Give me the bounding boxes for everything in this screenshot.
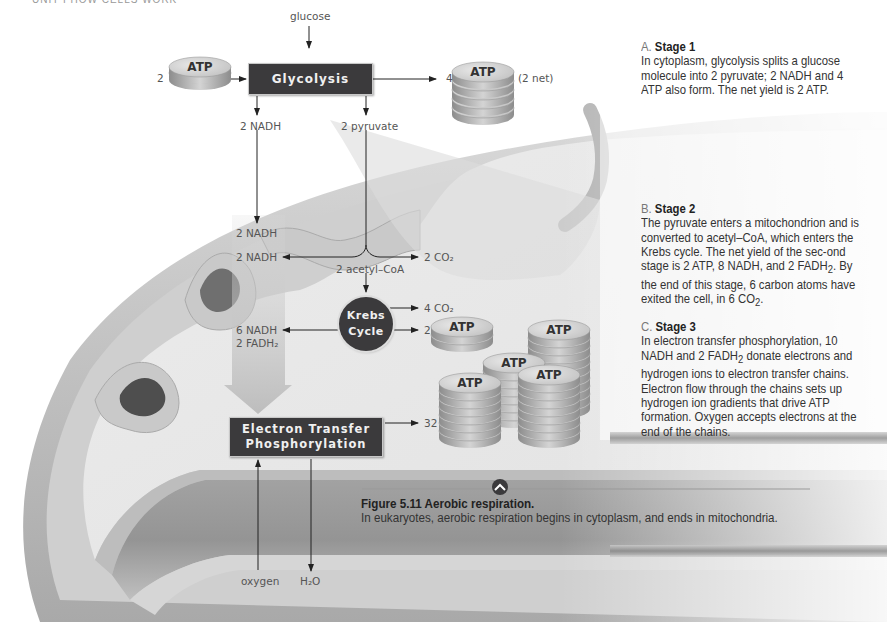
svg-text:ATP: ATP (187, 60, 213, 74)
stage2-body: The pyruvate enters a mitochondrion and … (641, 216, 864, 311)
stage1-text: A. Stage 1 In cytoplasm, glycolysis spli… (641, 40, 864, 97)
atp-net-label: (2 net) (518, 72, 553, 84)
atp-coin-input: ATP (169, 57, 231, 90)
stage3-letter: C. (641, 320, 652, 334)
krebs-cycle-circle: Krebs Cycle (339, 297, 393, 351)
stage3-body: In electron transfer phosphorylation, 10… (641, 334, 864, 439)
atp-glycolysis-count: 4 (446, 72, 453, 84)
acetyl-coa-label: 2 acetyl–CoA (336, 263, 404, 275)
etp-box: Electron Transfer Phosphorylation (229, 417, 383, 457)
svg-text:ATP: ATP (457, 376, 483, 390)
oxygen-label: oxygen (241, 575, 279, 587)
caption-body: In eukaryotes, aerobic respiration begin… (361, 511, 778, 525)
svg-text:ATP: ATP (501, 356, 527, 370)
etp-line1: Electron Transfer (230, 422, 382, 437)
svg-text:ATP: ATP (449, 320, 475, 334)
atp-stack-etp-4: ATP (518, 365, 580, 448)
atp-etp-count: 32 (424, 417, 437, 429)
pyruvate-label: 2 pyruvate (341, 120, 398, 132)
caption-title: Figure 5.11 Aerobic respiration. (361, 497, 778, 511)
glucose-label: glucose (290, 10, 330, 22)
water-label: H₂O (300, 575, 320, 587)
stage1-title: Stage 1 (655, 40, 695, 54)
atp-stack-etp-3: ATP (439, 373, 501, 448)
atp-coin-krebs: ATP (431, 317, 493, 352)
svg-text:ATP: ATP (546, 323, 572, 337)
etp-line2: Phosphorylation (230, 437, 382, 452)
svg-text:ATP: ATP (470, 65, 496, 79)
krebs-line1: Krebs (339, 308, 393, 324)
running-head: UNIT I HOW CELLS WORK (32, 0, 177, 5)
glycolysis-box: Glycolysis (248, 63, 373, 95)
stage2-text: B. Stage 2 The pyruvate enters a mitocho… (641, 202, 864, 311)
stage1-body: In cytoplasm, glycolysis splits a glucos… (641, 54, 864, 97)
atp-input-count: 2 (157, 72, 164, 84)
stage1-letter: A. (641, 40, 652, 54)
svg-text:ATP: ATP (536, 368, 562, 382)
atp-krebs-count: 2 (424, 324, 431, 336)
stage2-title: Stage 2 (655, 202, 695, 216)
atp-stack-glycolysis: ATP (452, 62, 514, 125)
glycolysis-label: Glycolysis (272, 72, 349, 86)
krebs-line2: Cycle (339, 324, 393, 340)
nadh-glycolysis-label: 2 NADH (240, 120, 281, 132)
nadh-pyruvate-label: 2 NADH (236, 251, 277, 263)
stage2-letter: B. (641, 202, 652, 216)
figure-caption: Figure 5.11 Aerobic respiration. In euka… (361, 497, 778, 525)
co2-pyruvate-label: 2 CO₂ (424, 251, 454, 263)
stage3-title: Stage 3 (655, 320, 695, 334)
stage3-text: C. Stage 3 In electron transfer phosphor… (641, 320, 864, 439)
fadh2-krebs-label: 2 FADH₂ (236, 337, 278, 349)
co2-krebs-label: 4 CO₂ (424, 302, 454, 314)
nadh-mito-label: 2 NADH (236, 227, 277, 239)
nadh-krebs-label: 6 NADH (236, 324, 277, 336)
